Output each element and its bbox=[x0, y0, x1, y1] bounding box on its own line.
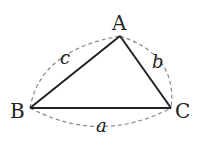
side-label-c: c bbox=[60, 47, 70, 68]
edge-ac bbox=[120, 36, 171, 108]
vertex-label-a: A bbox=[111, 11, 127, 35]
vertex-label-c: C bbox=[175, 99, 190, 123]
side-label-b: b bbox=[152, 51, 164, 72]
side-label-a: a bbox=[96, 115, 107, 136]
edge-ab bbox=[30, 36, 120, 108]
vertex-label-b: B bbox=[10, 99, 25, 123]
triangle-diagram: A B C c b a bbox=[0, 0, 198, 157]
